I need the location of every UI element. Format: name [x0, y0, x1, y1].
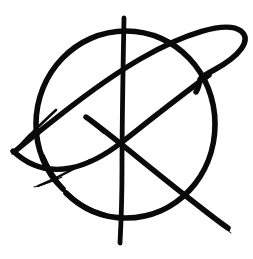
artboard — [0, 0, 253, 259]
hand-drawn-symbol — [0, 0, 253, 259]
